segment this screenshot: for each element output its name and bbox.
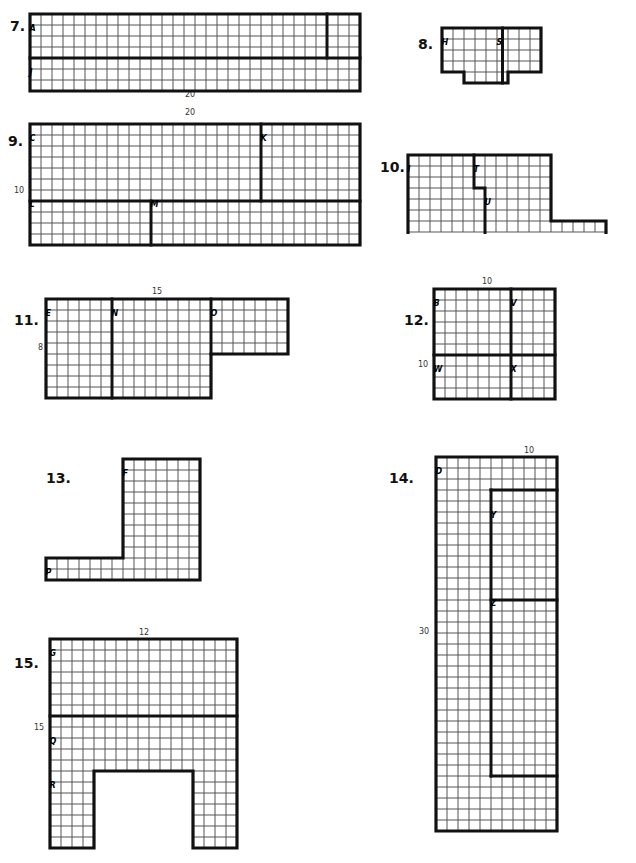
region-label: J [30,69,33,77]
figure-problem-10: ITU [406,153,608,234]
region-label: Q [50,738,57,746]
region-label: U [485,199,492,207]
region-label: P [46,569,52,577]
problem-number-15: 15. [14,655,39,671]
region-label: M [151,201,159,209]
dimension-label: 10 [524,446,534,455]
problem-number-11: 11. [14,312,39,328]
region-label: N [112,310,119,318]
region-label: C [30,135,36,143]
region-label: V [511,300,517,308]
region-label: Y [491,512,497,520]
region-label: D [436,468,443,476]
region-label: R [50,782,56,790]
problem-number-8: 8. [418,36,433,52]
problem-number-7: 7. [10,18,25,34]
dimension-label: 10 [418,360,428,369]
region-label: T [474,166,479,174]
problem-number-9: 9. [8,133,23,149]
region-label: B [434,300,440,308]
dimension-label: 12 [139,628,149,637]
region-label: O [211,310,218,318]
region-label: E [46,310,51,318]
problem-number-14: 14. [389,470,414,486]
figure-problem-14: DYZ [434,455,559,833]
dimension-label: 15 [152,287,162,296]
dimension-label: 8 [38,343,43,352]
region-label: L [30,201,35,209]
dimension-label: 20 [185,108,195,117]
region-label: F [123,470,128,478]
figure-problem-12: BVWX [432,287,557,401]
dimension-label: 30 [419,627,429,636]
region-label: Z [491,600,497,608]
worksheet-page: 7.20AJ8.HS9.2010CKLM10.ITU11.158ENO12.10… [0,0,636,863]
region-label: K [261,135,267,143]
dimension-label: 10 [14,186,24,195]
region-label: H [442,39,449,47]
problem-number-12: 12. [404,312,429,328]
region-label: I [408,166,411,174]
dimension-label: 10 [482,277,492,286]
region-label: X [511,366,517,374]
region-label: W [434,366,443,374]
figure-problem-7: AJ [28,12,362,93]
figure-problem-8: HS [440,26,543,85]
figure-problem-9: CKLM [28,122,362,247]
dimension-label: 15 [34,723,44,732]
figure-problem-11: ENO [44,297,290,400]
region-label: S [497,39,503,47]
region-label: A [30,25,36,33]
region-label: G [50,650,57,658]
figure-problem-15: GQR [48,637,239,850]
problem-number-10: 10. [380,159,405,175]
figure-problem-13: FP [44,457,202,582]
